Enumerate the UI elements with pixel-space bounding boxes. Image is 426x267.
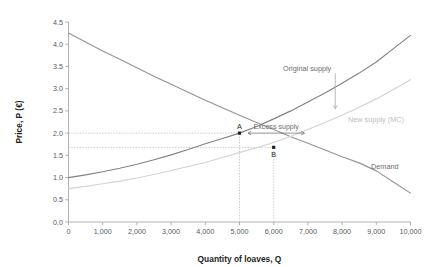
chart-container: 0.00.51.01.52.02.53.03.54.04.501,0002,00…: [0, 0, 426, 267]
x-tick-label: 10,000: [400, 227, 422, 236]
y-tick-label: 4.0: [53, 40, 63, 49]
y-tick-label: 2.5: [53, 106, 63, 115]
x-tick-label: 3,000: [162, 227, 180, 236]
x-tick-label: 1,000: [94, 227, 112, 236]
y-tick-label: 2.0: [53, 129, 63, 138]
chart-plot-group: 0.00.51.01.52.02.53.03.54.04.501,0002,00…: [14, 18, 421, 264]
x-tick-label: 2,000: [128, 227, 146, 236]
y-axis-title: Price, P (€): [14, 100, 24, 143]
x-tick-label: 0: [67, 227, 71, 236]
x-tick-label: 6,000: [265, 227, 283, 236]
x-tick-label: 7,000: [299, 227, 317, 236]
new-supply-label: New supply (MC): [348, 115, 404, 124]
demand-curve: [69, 33, 411, 193]
y-tick-label: 0.0: [53, 218, 63, 227]
data-point-label-a: A: [237, 122, 242, 131]
y-tick-label: 3.5: [53, 62, 63, 71]
y-tick-label: 0.5: [53, 195, 63, 204]
data-point-marker: [272, 146, 275, 149]
x-tick-label: 9,000: [367, 227, 385, 236]
y-tick-label: 4.5: [53, 18, 63, 27]
excess-supply-annotation: Excess supply: [248, 123, 304, 135]
supply-demand-chart: 0.00.51.01.52.02.53.03.54.04.501,0002,00…: [0, 0, 426, 267]
excess-supply-label: Excess supply: [254, 123, 300, 131]
y-tick-label: 3.0: [53, 84, 63, 93]
demand-label: Demand: [371, 162, 399, 171]
data-point-marker: [238, 132, 241, 135]
supply-shift-down-arrow: [333, 73, 337, 109]
x-tick-label: 8,000: [333, 227, 351, 236]
x-tick-label: 5,000: [231, 227, 249, 236]
x-tick-label: 4,000: [196, 227, 214, 236]
x-axis-title: Quantity of loaves, Q: [198, 254, 282, 264]
y-tick-label: 1.5: [53, 151, 63, 160]
data-point-label-b: B: [271, 150, 276, 159]
y-tick-label: 1.0: [53, 173, 63, 182]
original-supply-label: Original supply: [283, 64, 332, 73]
